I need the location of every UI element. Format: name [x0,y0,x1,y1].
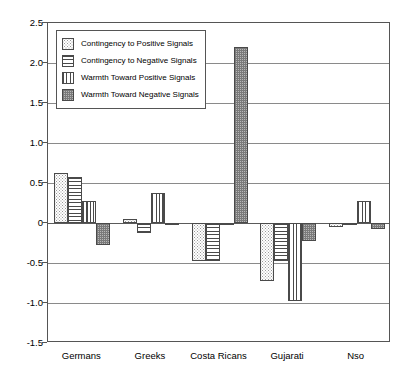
legend-item-label: Contingency to Positive Signals [81,40,193,48]
legend-swatch-icon [62,89,74,101]
y-tick-label: -1.5 [3,337,43,348]
gridline-1 [48,143,389,144]
y-tick-label: -0.5 [3,257,43,268]
bar [343,223,357,225]
x-tick-label-greeks: Greeks [135,350,166,361]
x-tick-label-nso: Nso [347,350,364,361]
bar [68,177,82,223]
bar [137,223,151,233]
gridline-0_5 [48,183,389,184]
bar [82,201,96,223]
legend-item-label: Warmth Toward Negative Signals [81,91,199,99]
x-tick-label-gujarati: Gujarati [270,350,303,361]
bar [220,223,234,225]
legend-item: Warmth Toward Positive Signals [62,69,200,86]
bar [123,219,137,223]
legend-item: Warmth Toward Negative Signals [62,86,200,103]
bar [165,223,179,225]
y-tick-label: 1.5 [3,97,43,108]
bar [371,223,385,229]
legend-item: Contingency to Negative Signals [62,52,200,69]
y-tick-label: 0.5 [3,177,43,188]
bar-chart: 2.52.01.51.00.50-0.5-1.0-1.5 GermansGree… [0,0,409,375]
y-tick-label: -1.0 [3,297,43,308]
legend-item-label: Contingency to Negative Signals [81,57,197,65]
bar [274,223,288,261]
gridline--1 [48,303,389,304]
bar [302,223,316,241]
bar [206,223,220,261]
legend: Contingency to Positive SignalsContingen… [56,30,206,109]
bar [260,223,274,281]
legend-item-label: Warmth Toward Positive Signals [81,74,195,82]
legend-swatch-icon [62,72,74,84]
y-tick-label: 2.5 [3,17,43,28]
x-tick-label-germans: Germans [62,350,101,361]
legend-swatch-icon [62,55,74,67]
bar [54,173,68,223]
bar [357,201,371,223]
bar [151,193,165,223]
y-tick-label: 0 [3,217,43,228]
bar [329,223,343,227]
legend-swatch-icon [62,38,74,50]
bar [192,223,206,261]
y-tick-mark [42,342,47,343]
gridline--0_5 [48,263,389,264]
bar [234,47,248,223]
y-tick-label: 2.0 [3,57,43,68]
legend-item: Contingency to Positive Signals [62,35,200,52]
bar [96,223,110,245]
y-tick-label: 1.0 [3,137,43,148]
bar [288,223,302,301]
x-tick-label-costa-ricans: Costa Ricans [190,350,247,361]
